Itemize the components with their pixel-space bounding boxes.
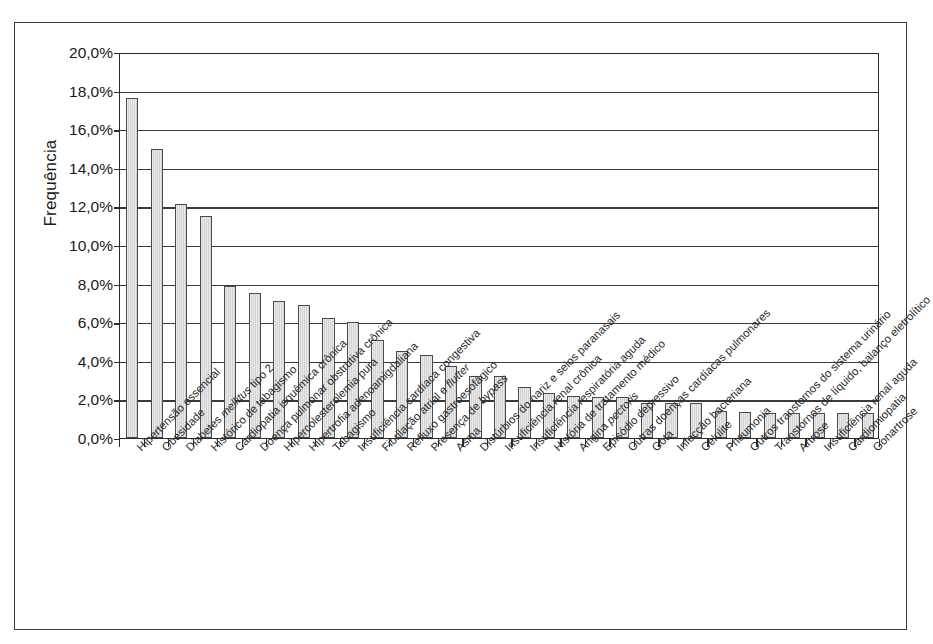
y-tick-label: 0,0% (78, 431, 113, 447)
y-tick-label: 2,0% (78, 393, 113, 409)
chart-area: Frequência 0,0%2,0%4,0%6,0%8,0%10,0%12,0… (15, 23, 908, 631)
y-tick-label: 20,0% (69, 45, 113, 61)
figure-frame: Frequência 0,0%2,0%4,0%6,0%8,0%10,0%12,0… (14, 22, 907, 630)
y-tick-label: 10,0% (69, 238, 113, 254)
y-tick-label: 8,0% (78, 277, 113, 293)
y-tick-label: 18,0% (69, 84, 113, 100)
y-tick-label: 16,0% (69, 122, 113, 138)
y-tick-label: 12,0% (69, 200, 113, 216)
y-axis-tick-labels: 0,0%2,0%4,0%6,0%8,0%10,0%12,0%14,0%16,0%… (55, 53, 119, 439)
y-tick-label: 4,0% (78, 354, 113, 370)
bar (200, 216, 212, 438)
bar (151, 149, 163, 439)
x-tick-mark (119, 439, 120, 447)
y-tick-label: 14,0% (69, 161, 113, 177)
x-axis-category-labels: Hipertensão essencialObesidadeDiabetes m… (119, 447, 909, 631)
y-tick-label: 6,0% (78, 315, 113, 331)
bar (126, 98, 138, 438)
